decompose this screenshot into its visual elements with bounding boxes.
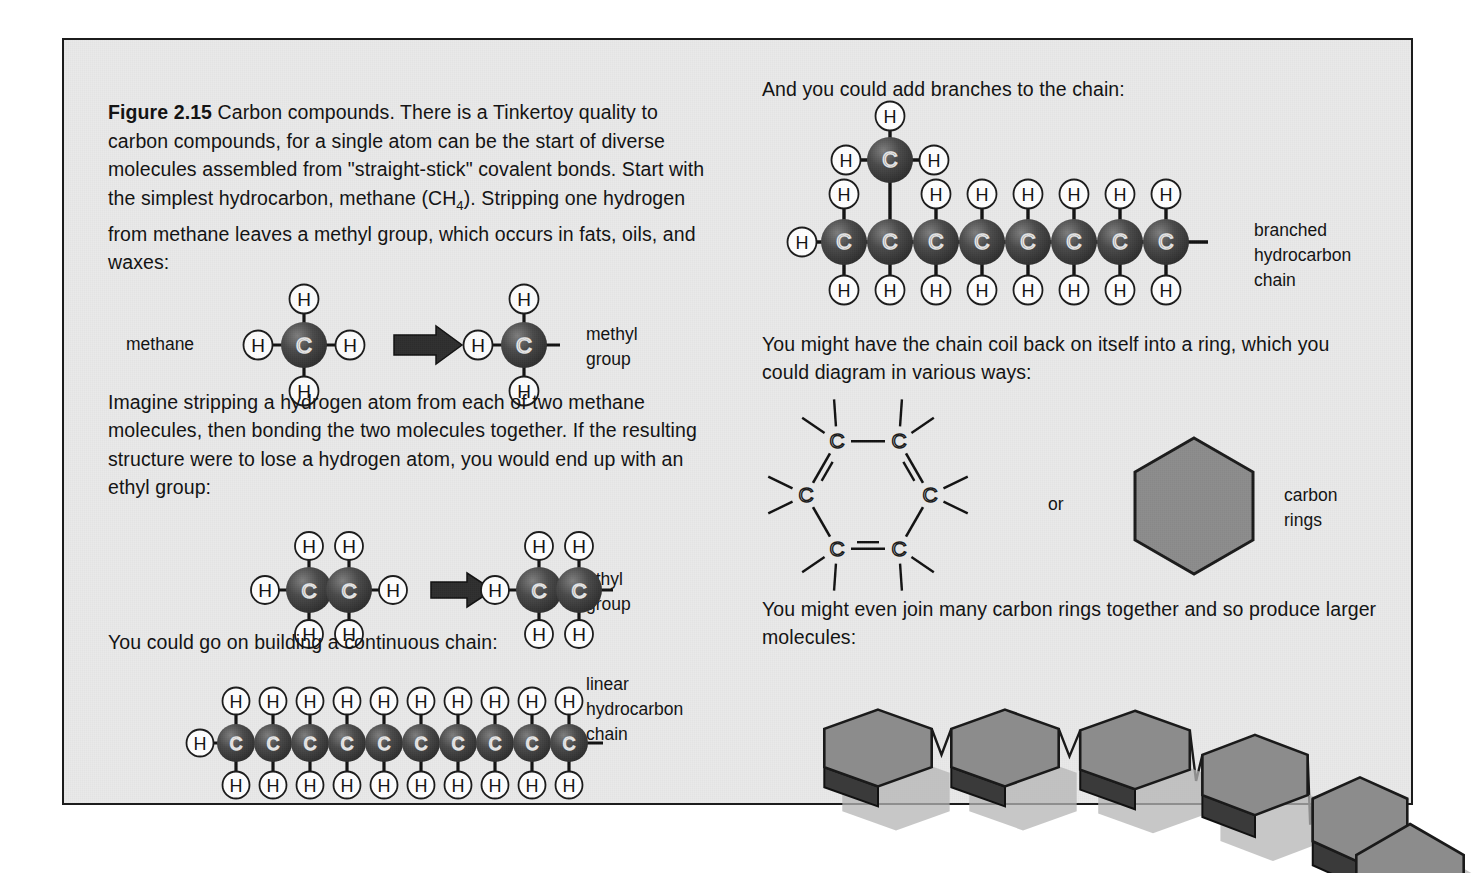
hydrogen-atom-label: H	[194, 734, 207, 754]
ring-bond	[813, 507, 830, 536]
hydrogen-atom-label: H	[563, 692, 576, 712]
ring-bond-stub	[802, 557, 824, 572]
carbon-atom-label: C	[563, 734, 576, 754]
carbon-atom-label: C	[882, 148, 897, 171]
carbon-ring-structure-diagram: CCCCCC	[768, 398, 978, 598]
paragraph-chain: You could go on building a continuous ch…	[108, 628, 708, 656]
carbon-atom-label: C	[891, 537, 906, 560]
carbon-atom-label: C	[928, 230, 943, 253]
hydrogen-atom: H	[481, 576, 509, 604]
hexagon-shape	[1135, 438, 1253, 574]
ring-connector-line	[932, 729, 952, 755]
hydrogen-atom-label: H	[415, 776, 428, 796]
hydrogen-atom: H	[379, 576, 407, 604]
hydrogen-atom: H	[336, 331, 365, 360]
hydrogen-atom-label: H	[341, 776, 354, 796]
carbon-rings-label: carbon rings	[1284, 483, 1338, 533]
carbon-atom-label: C	[922, 483, 937, 506]
hydrogen-atom: H	[244, 331, 273, 360]
hydrogen-atom-label: H	[342, 536, 356, 557]
hydrogen-atom-label: H	[563, 776, 576, 796]
hydrogen-atom-label: H	[1068, 185, 1081, 205]
branched-chain-label: branched hydrocarbon chain	[1254, 218, 1351, 293]
hydrogen-atom-label: H	[297, 289, 311, 310]
hydrogen-atom: H	[290, 285, 319, 314]
carbon-atom-label: C	[1020, 230, 1035, 253]
hydrogen-atom: H	[525, 532, 553, 560]
figure-caption: Figure 2.15 Carbon compounds. There is a…	[108, 70, 708, 277]
hydrogen-atom-label: H	[1022, 185, 1035, 205]
hydrogen-atom-label: H	[386, 580, 400, 601]
hydrogen-atom-label: H	[452, 692, 465, 712]
hydrogen-atom-label: H	[930, 281, 943, 301]
ring-bond-stub	[943, 502, 967, 514]
ring-bond-stub	[900, 564, 902, 591]
hydrogen-atom-label: H	[304, 776, 317, 796]
hydrogen-atom-label: H	[304, 692, 317, 712]
hydrogen-atom-label: H	[884, 281, 897, 301]
hydrogen-atom-label: H	[302, 536, 316, 557]
carbon-atom-label: C	[836, 230, 851, 253]
carbon-atom-label: C	[516, 333, 532, 358]
hydrogen-atom-label: H	[1114, 281, 1127, 301]
figure-page: Figure 2.15 Carbon compounds. There is a…	[0, 0, 1475, 873]
ring-bond	[906, 507, 923, 536]
carbon-atom-label: C	[489, 734, 502, 754]
carbon-atom-label: C	[452, 734, 465, 754]
hydrogen-atom-label: H	[572, 536, 586, 557]
caption-subscript: 4	[456, 198, 463, 213]
carbon-atom-label: C	[571, 579, 586, 602]
hydrogen-atom-label: H	[471, 335, 485, 356]
carbon-atom-label: C	[341, 579, 356, 602]
hydrogen-atom-label: H	[267, 776, 280, 796]
hydrogen-atom-label: H	[1068, 281, 1081, 301]
ring-bond-stub	[834, 399, 836, 426]
hydrogen-atom-label: H	[532, 536, 546, 557]
carbon-atom-label: C	[378, 734, 391, 754]
hydrogen-atom-label: H	[526, 776, 539, 796]
hydrogen-atom-label: H	[378, 692, 391, 712]
or-connector-label: or	[1048, 492, 1064, 517]
ring-bond-stub	[943, 477, 967, 489]
hydrogen-atom-label: H	[930, 185, 943, 205]
carbon-atom-label: C	[829, 429, 844, 452]
ring-connector-line	[1059, 729, 1081, 757]
ring-bond-stub	[768, 477, 792, 489]
carbon-atom-label: C	[415, 734, 428, 754]
hydrogen-atom-label: H	[452, 776, 465, 796]
hydrogen-atom-label: H	[258, 580, 272, 601]
hydrogen-atom-label: H	[488, 580, 502, 601]
hydrogen-atom-label: H	[517, 289, 531, 310]
carbon-atom-label: C	[798, 483, 813, 506]
carbon-atom-label: C	[341, 734, 354, 754]
carbon-atom-label: C	[1158, 230, 1173, 253]
hydrogen-atom-label: H	[489, 692, 502, 712]
paragraph-ethyl: Imagine stripping a hydrogen atom from e…	[108, 388, 708, 502]
carbon-atom-label: C	[304, 734, 317, 754]
hydrogen-atom-label: H	[840, 151, 853, 171]
carbon-atom-label: C	[267, 734, 280, 754]
hydrogen-atom-label: H	[230, 692, 243, 712]
reaction-arrow-icon	[394, 326, 462, 364]
hydrogen-atom-label: H	[1160, 185, 1173, 205]
carbon-atom-label: C	[1112, 230, 1127, 253]
hydrogen-atom-label: H	[489, 776, 502, 796]
hydrogen-atom-label: H	[838, 185, 851, 205]
carbon-atom-label: C	[526, 734, 539, 754]
hydrogen-atom: H	[565, 532, 593, 560]
methane-label: methane	[126, 332, 194, 357]
figure-number: Figure 2.15	[108, 101, 212, 123]
branched-hydrocarbon-chain-diagram: CHHHCCCCCCCCHHHHHHHHHHHHHHHH	[784, 102, 1224, 302]
methane-to-methyl-diagram: C H H H H	[204, 285, 604, 405]
hydrogen-atom-label: H	[251, 335, 265, 356]
hydrogen-atom-label: H	[976, 281, 989, 301]
carbon-atom-label: C	[882, 230, 897, 253]
ring-bond-stub	[802, 418, 824, 433]
solid-carbon-ring-hexagon	[1124, 430, 1264, 580]
hydrogen-atom-label: H	[976, 185, 989, 205]
hydrogen-atom: H	[510, 285, 539, 314]
hydrogen-atom-label: H	[341, 692, 354, 712]
carbon-atom-label: C	[230, 734, 243, 754]
ring-bond-stub	[834, 564, 836, 591]
paragraph-branches: And you could add branches to the chain:	[762, 75, 1382, 103]
